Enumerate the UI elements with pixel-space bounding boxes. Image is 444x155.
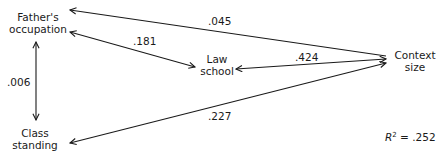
coef-181: .181 (133, 35, 156, 47)
node-label-line1: Law (195, 53, 239, 65)
node-label-line1: Class (10, 127, 60, 139)
coef-006: .006 (7, 76, 30, 88)
node-law-school: Law school (195, 53, 239, 77)
node-label-line2: occupation (8, 23, 68, 35)
r-squared-label: R2 = .252 (385, 131, 436, 143)
node-label-line1: Father's (8, 11, 68, 23)
node-context-size: Context size (390, 49, 440, 73)
r-exponent: 2 (392, 131, 396, 139)
node-fathers-occupation: Father's occupation (8, 11, 68, 35)
node-label-line2: school (195, 65, 239, 77)
node-label-line2: standing (10, 139, 60, 151)
r-value: .252 (412, 131, 435, 143)
coef-424: .424 (295, 51, 318, 63)
r-equals: = (397, 131, 412, 143)
coef-045: .045 (208, 15, 231, 27)
node-label-line2: size (390, 61, 440, 73)
node-class-standing: Class standing (10, 127, 60, 151)
node-label-line1: Context (390, 49, 440, 61)
coef-227: .227 (208, 110, 231, 122)
